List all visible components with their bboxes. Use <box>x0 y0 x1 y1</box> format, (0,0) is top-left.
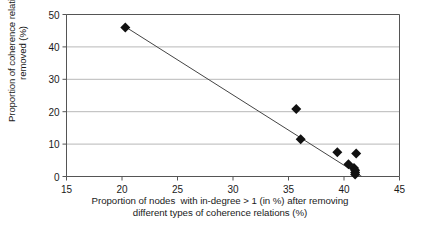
x-axis-title: Proportion of nodes with in-degree > 1 (… <box>34 195 406 219</box>
trend-line-segment <box>125 27 361 177</box>
x-tick-label: 40 <box>338 184 349 195</box>
x-tick-label: 15 <box>61 184 72 195</box>
y-tick-label: 10 <box>35 139 60 150</box>
y-tick-label: 30 <box>35 74 60 85</box>
gridlines <box>67 15 400 145</box>
y-tick-label: 0 <box>35 171 60 182</box>
x-axis-title-line-2: different types of coherence relations (… <box>34 207 406 219</box>
y-tick-label: 50 <box>35 9 60 20</box>
x-tick-label: 35 <box>283 184 294 195</box>
x-tick-label: 25 <box>172 184 183 195</box>
y-tick-label: 40 <box>35 41 60 52</box>
data-point-marker <box>332 147 342 157</box>
x-tick-label: 45 <box>394 184 405 195</box>
data-point-marker <box>351 148 361 158</box>
x-tick-label: 20 <box>116 184 127 195</box>
axis-ticks <box>63 15 400 181</box>
trend-line <box>125 27 361 177</box>
x-tick-label: 30 <box>227 184 238 195</box>
data-point-marker <box>120 22 130 32</box>
x-axis-title-line-1: Proportion of nodes with in-degree > 1 (… <box>34 195 406 207</box>
y-tick-label: 20 <box>35 106 60 117</box>
chart-figure: Proportion of coherence relations remove… <box>0 0 423 236</box>
data-point-marker <box>291 104 301 114</box>
